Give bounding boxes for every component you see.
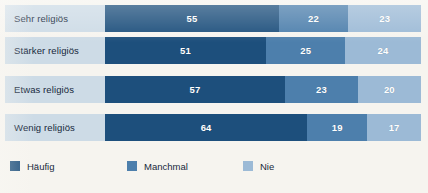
bar-segment-manchmal[interactable]: 19 xyxy=(307,114,367,141)
row-category-text: Stärker religiös xyxy=(14,45,79,56)
bar-segment-manchmal[interactable]: 23 xyxy=(285,76,358,103)
bar-segment-manchmal[interactable]: 25 xyxy=(266,37,345,64)
legend-item-nie[interactable]: Nie xyxy=(243,158,274,174)
row-category-text: Wenig religiös xyxy=(14,122,75,133)
row-category-label: Etwas religiös xyxy=(5,76,105,103)
bar-segment-value: 23 xyxy=(379,13,390,24)
bar-segment-nie[interactable]: 23 xyxy=(348,5,421,32)
legend-swatch-icon xyxy=(127,161,137,171)
stacked-bar-chart: Sehr religiös 55 22 23 Stärker religiös xyxy=(0,0,428,193)
bar-segment-nie[interactable]: 24 xyxy=(345,37,421,64)
legend-item-manchmal[interactable]: Manchmal xyxy=(127,158,188,174)
bar-track: 51 25 24 xyxy=(105,37,421,64)
chart-legend: Häufig Manchmal Nie xyxy=(0,158,428,174)
bar-segment-haeufig[interactable]: 57 xyxy=(105,76,285,103)
legend-swatch-icon xyxy=(10,161,20,171)
bar-segment-value: 25 xyxy=(300,45,311,56)
bar-segment-value: 22 xyxy=(308,13,319,24)
row-category-label: Sehr religiös xyxy=(5,5,105,32)
bar-segment-value: 23 xyxy=(316,84,327,95)
legend-label: Nie xyxy=(260,161,274,172)
bar-segment-haeufig[interactable]: 51 xyxy=(105,37,266,64)
chart-row: Stärker religiös 51 25 24 xyxy=(0,37,428,64)
bar-segment-value: 51 xyxy=(180,45,191,56)
row-category-label: Wenig religiös xyxy=(5,114,105,141)
bar-track: 64 19 17 xyxy=(105,114,421,141)
chart-row: Sehr religiös 55 22 23 xyxy=(0,5,428,32)
bar-segment-value: 20 xyxy=(384,84,395,95)
bar-track: 57 23 20 xyxy=(105,76,421,103)
bar-segment-haeufig[interactable]: 55 xyxy=(105,5,279,32)
bar-segment-value: 17 xyxy=(389,122,400,133)
bar-segment-haeufig[interactable]: 64 xyxy=(105,114,307,141)
bar-segment-value: 19 xyxy=(332,122,343,133)
legend-label: Manchmal xyxy=(144,161,188,172)
bar-track: 55 22 23 xyxy=(105,5,421,32)
bar-segment-value: 64 xyxy=(201,122,212,133)
legend-label: Häufig xyxy=(27,161,54,172)
bar-segment-nie[interactable]: 17 xyxy=(367,114,421,141)
row-category-text: Sehr religiös xyxy=(14,13,68,24)
bar-segment-nie[interactable]: 20 xyxy=(358,76,421,103)
bar-segment-manchmal[interactable]: 22 xyxy=(279,5,349,32)
row-category-label: Stärker religiös xyxy=(5,37,105,64)
bar-segment-value: 24 xyxy=(378,45,389,56)
plot-area: Sehr religiös 55 22 23 Stärker religiös xyxy=(0,0,428,148)
bar-segment-value: 55 xyxy=(186,13,197,24)
legend-item-haeufig[interactable]: Häufig xyxy=(10,158,54,174)
chart-row: Wenig religiös 64 19 17 xyxy=(0,114,428,141)
row-category-text: Etwas religiös xyxy=(14,84,74,95)
chart-row: Etwas religiös 57 23 20 xyxy=(0,76,428,103)
bar-segment-value: 57 xyxy=(190,84,201,95)
legend-swatch-icon xyxy=(243,161,253,171)
